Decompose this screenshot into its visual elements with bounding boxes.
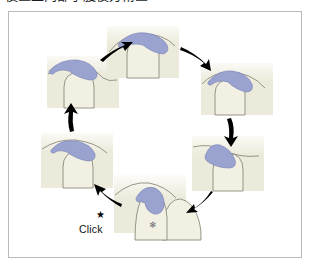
star-icon: ★ bbox=[96, 210, 105, 220]
figure-caption-strip: 後區上肉部子腹後方術區 bbox=[0, 0, 313, 9]
panel-bottom bbox=[114, 175, 201, 240]
panel-upper-right bbox=[201, 63, 273, 115]
arrow-lowerright-to-bottom bbox=[186, 191, 213, 213]
figure-caption-text: 後區上肉部子腹後方術區 bbox=[5, 0, 148, 2]
figure-frame: ★ Click ❄ bbox=[8, 11, 302, 258]
arrow-top-to-upperright bbox=[180, 47, 211, 71]
panel-lower-right bbox=[192, 136, 264, 191]
snowflake-icon: ❄ bbox=[149, 221, 157, 230]
panel-lower-left bbox=[41, 133, 113, 188]
click-label: Click bbox=[79, 223, 103, 235]
panel-upper-left bbox=[47, 56, 119, 108]
